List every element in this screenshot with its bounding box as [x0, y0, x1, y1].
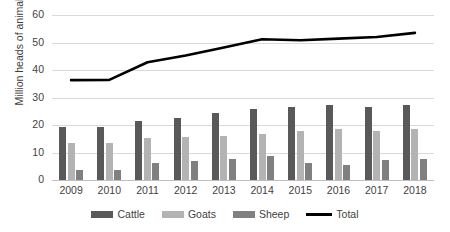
legend-swatch-total-icon — [306, 213, 332, 216]
legend-label: Sheep — [259, 208, 289, 220]
total-line-layer — [52, 15, 434, 180]
legend-label: Cattle — [117, 208, 144, 220]
y-tick-label-40: 40 — [8, 63, 44, 75]
gridline-0 — [52, 180, 434, 181]
y-tick-label-30: 30 — [8, 91, 44, 103]
total-line-svg — [52, 15, 434, 180]
chart-legend: CattleGoatsSheepTotal — [0, 208, 450, 220]
x-tick-label-2017: 2017 — [358, 184, 396, 196]
x-tick-label-2018: 2018 — [396, 184, 434, 196]
y-tick-label-60: 60 — [8, 8, 44, 20]
x-tick-label-2011: 2011 — [129, 184, 167, 196]
x-tick-label-2009: 2009 — [52, 184, 90, 196]
x-tick-label-2010: 2010 — [90, 184, 128, 196]
x-tick-label-2013: 2013 — [205, 184, 243, 196]
total-line[interactable] — [71, 33, 415, 80]
legend-item-goats[interactable]: Goats — [162, 208, 216, 220]
x-tick-label-2015: 2015 — [281, 184, 319, 196]
y-tick-label-50: 50 — [8, 36, 44, 48]
legend-swatch-goats-icon — [162, 211, 184, 218]
y-tick-label-10: 10 — [8, 146, 44, 158]
legend-item-total[interactable]: Total — [306, 208, 358, 220]
x-tick-label-2014: 2014 — [243, 184, 281, 196]
x-tick-label-2016: 2016 — [320, 184, 358, 196]
y-tick-label-0: 0 — [8, 173, 44, 185]
legend-label: Total — [336, 208, 358, 220]
x-tick-label-2012: 2012 — [167, 184, 205, 196]
legend-swatch-cattle-icon — [91, 211, 113, 218]
livestock-population-chart: Million heads of animal 0102030405060 20… — [0, 0, 450, 232]
legend-swatch-sheep-icon — [233, 211, 255, 218]
legend-item-sheep[interactable]: Sheep — [233, 208, 289, 220]
y-tick-label-20: 20 — [8, 118, 44, 130]
legend-label: Goats — [188, 208, 216, 220]
legend-item-cattle[interactable]: Cattle — [91, 208, 144, 220]
